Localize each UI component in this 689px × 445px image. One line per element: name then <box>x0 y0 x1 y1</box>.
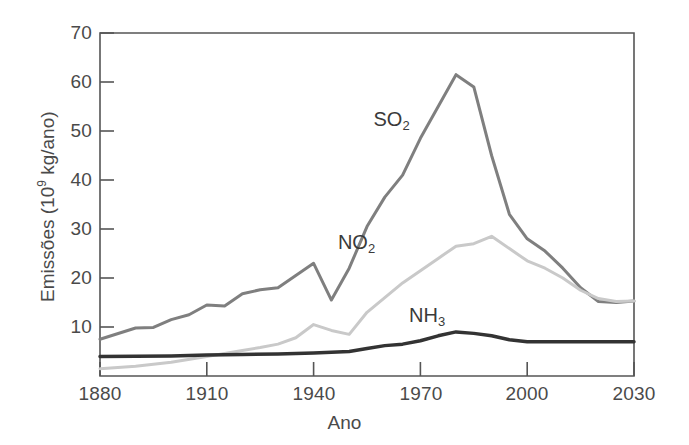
series-label-no2: NO2 <box>338 231 375 254</box>
x-axis-title: Ano <box>0 412 689 434</box>
series-line-nh3 <box>100 332 634 357</box>
chart-canvas <box>0 0 689 445</box>
series-label-nh3: NH3 <box>409 304 445 327</box>
series-label-so2-sub: 2 <box>402 118 409 133</box>
series-label-no2-sub: 2 <box>368 241 375 256</box>
axis-lines <box>100 33 634 376</box>
xtick-label: 1880 <box>65 383 135 405</box>
xtick-label: 1970 <box>386 383 456 405</box>
ytick-label: 70 <box>46 22 92 44</box>
xtick-label: 2000 <box>492 383 562 405</box>
y-axis-title-exponent: 9 <box>35 180 49 187</box>
series-label-no2-text: NO <box>338 231 368 253</box>
series-line-so2 <box>100 75 634 340</box>
series-layer <box>100 75 634 369</box>
series-label-nh3-text: NH <box>409 304 438 326</box>
y-axis-title-prefix: Emissões (10 <box>37 187 58 302</box>
y-axis-title-suffix: kg/ano) <box>37 111 58 180</box>
tick-marks <box>100 33 634 376</box>
xtick-label: 2030 <box>599 383 669 405</box>
series-label-so2-text: SO <box>373 108 402 130</box>
series-label-so2: SO2 <box>373 108 409 131</box>
xtick-label: 1910 <box>172 383 242 405</box>
series-label-nh3-sub: 3 <box>438 314 445 329</box>
emissions-line-chart: 70 60 50 40 30 20 10 1880 1910 1940 1970… <box>0 0 689 445</box>
axis-frame <box>100 33 634 376</box>
y-axis-title: Emissões (109 kg/ano) <box>35 82 58 332</box>
xtick-label: 1940 <box>279 383 349 405</box>
